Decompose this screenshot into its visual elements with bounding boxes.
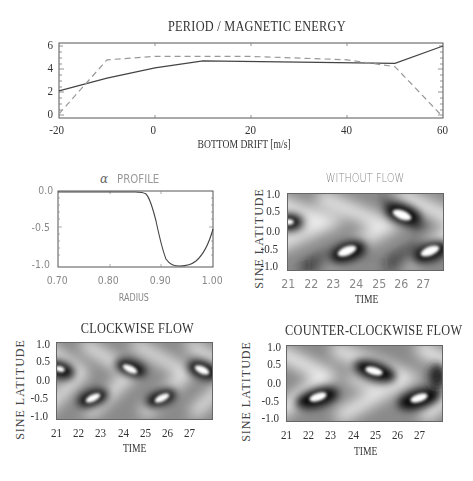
top-ytick: 2	[47, 83, 53, 99]
clockwise-flow-xtick: 25	[140, 425, 151, 441]
without-flow-ytick: 1.0	[266, 186, 280, 202]
counter-clockwise-flow-xtick: 27	[414, 427, 425, 443]
counter-clockwise-flow-xtick: 24	[348, 427, 359, 443]
counter-clockwise-flow-title: COUNTER-CLOCKWISE FLOW	[285, 322, 441, 339]
without-flow-ytick: 0.5	[266, 203, 280, 219]
clockwise-flow-ytick: -1.0	[31, 408, 49, 424]
top-chart-plot	[59, 43, 443, 118]
without-flow-heatmap	[287, 193, 444, 271]
without-flow-title: WITHOUT FLOW	[324, 171, 406, 185]
clockwise-flow-ylabel: SINE LATITUDE	[13, 335, 28, 445]
counter-clockwise-flow-ytick: 0.5	[267, 356, 281, 372]
counter-clockwise-flow-ytick: 0.0	[267, 375, 281, 391]
counter-clockwise-flow-xtick: 21	[281, 427, 292, 443]
without-flow-ytick: 0.0	[266, 223, 280, 239]
alpha-ytick: -1.0	[32, 258, 50, 271]
alpha-symbol: α	[100, 172, 108, 186]
clockwise-flow-title: CLOCKWISE FLOW	[81, 320, 179, 337]
alpha-ytick: -0.5	[32, 221, 50, 234]
clockwise-flow-xtick: 26	[162, 425, 173, 441]
without-flow-ytick: -1.0	[261, 258, 279, 274]
alpha-xtick: 0.80	[98, 274, 119, 287]
top-xtick: 0	[150, 122, 156, 138]
without-flow-xtick: 22	[304, 276, 318, 291]
alpha-xlabel: RADIUS	[119, 292, 149, 303]
alpha-ytick: 0.0	[38, 184, 53, 197]
without-flow-xtick: 24	[349, 276, 363, 291]
period-line	[59, 46, 443, 91]
alpha-chart-title: α PROFILE	[100, 168, 180, 187]
without-flow-xtick: 27	[416, 276, 430, 291]
clockwise-flow-xtick: 24	[118, 425, 129, 441]
without-flow-xtick: 25	[372, 276, 386, 291]
counter-clockwise-flow-ytick: 1.0	[267, 339, 281, 355]
alpha-xtick: 0.70	[47, 274, 68, 287]
clockwise-flow-ytick: 1.0	[36, 336, 50, 352]
without-flow-xtick: 26	[394, 276, 408, 291]
without-flow-ylabel: SINE LATITUDE	[252, 184, 267, 294]
counter-clockwise-flow-xtick: 23	[325, 427, 336, 443]
counter-clockwise-flow-ytick: -0.5	[262, 393, 280, 409]
top-xtick: 40	[341, 122, 352, 138]
top-chart-title: PERIOD / MAGNETIC ENERGY	[168, 18, 332, 35]
clockwise-flow-xtick: 27	[184, 425, 195, 441]
alpha-xtick: 0.90	[150, 274, 171, 287]
alpha-title-text: PROFILE	[117, 172, 159, 186]
top-ytick: 4	[47, 60, 53, 76]
top-ytick: 6	[47, 37, 53, 53]
clockwise-flow-xtick: 21	[51, 425, 62, 441]
counter-clockwise-flow-ytick: -1.0	[262, 410, 280, 426]
without-flow-xtick: 23	[326, 276, 340, 291]
counter-clockwise-flow-ylabel: SINE LATITUDE	[239, 337, 254, 447]
clockwise-flow-ytick: 0.0	[36, 372, 50, 388]
clockwise-flow-ytick: 0.5	[36, 353, 50, 369]
counter-clockwise-flow-heatmap	[286, 345, 443, 422]
top-xtick: -20	[49, 122, 64, 138]
counter-clockwise-flow-xtick: 26	[392, 427, 403, 443]
without-flow-xtick: 21	[281, 276, 295, 291]
counter-clockwise-flow-xlabel: TIME	[354, 444, 377, 459]
top-xtick: 60	[437, 122, 448, 138]
without-flow-xlabel: TIME	[355, 292, 378, 307]
counter-clockwise-flow-xtick: 25	[370, 427, 381, 443]
alpha-chart-plot	[58, 191, 213, 267]
clockwise-flow-xtick: 22	[73, 425, 84, 441]
alpha-xtick: 1.00	[202, 274, 223, 287]
top-ytick: 0	[47, 106, 53, 122]
clockwise-flow-ytick: -0.5	[31, 390, 49, 406]
top-xtick: 20	[245, 122, 256, 138]
clockwise-flow-xtick: 23	[95, 425, 106, 441]
counter-clockwise-flow-xtick: 22	[303, 427, 314, 443]
alpha-curve	[58, 192, 213, 266]
without-flow-ytick: -0.5	[261, 241, 279, 257]
clockwise-flow-xlabel: TIME	[123, 441, 146, 456]
clockwise-flow-heatmap	[56, 342, 213, 420]
top-xlabel: BOTTOM DRIFT [m/s]	[198, 137, 291, 152]
energy-line	[59, 56, 443, 117]
